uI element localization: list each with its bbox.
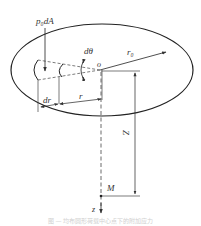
label-M: M — [106, 183, 115, 193]
circular-load-diagram: p₀dA dθ o r₀ r dr Z M z — [0, 0, 201, 226]
sector-lower-dashed — [38, 70, 100, 80]
label-angle: dθ — [84, 46, 94, 56]
label-r: r — [79, 91, 83, 101]
point-M — [100, 195, 103, 198]
label-load: p₀dA — [35, 16, 54, 26]
dtheta-arc — [81, 62, 83, 78]
label-dr: dr — [43, 95, 52, 105]
label-r0: r₀ — [127, 47, 134, 57]
sector-upper-dashed — [38, 60, 100, 70]
label-origin: o — [97, 60, 101, 69]
figure-caption: 图 — 均布圆形荷载中心点下的附加应力 — [0, 216, 201, 225]
element-outer-arc — [34, 60, 38, 80]
label-Z: Z — [121, 130, 131, 136]
label-z: z — [91, 205, 96, 214]
element-inner-arc — [59, 64, 63, 77]
